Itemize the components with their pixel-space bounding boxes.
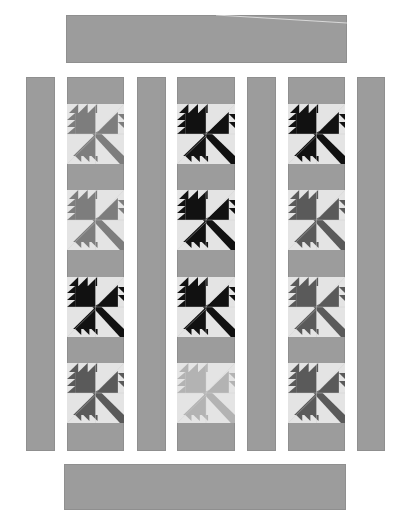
maple-leaf-block	[67, 363, 124, 423]
maple-leaf-block	[177, 363, 235, 423]
block-column-2	[177, 77, 235, 451]
maple-leaf-block	[177, 190, 235, 250]
block-column-3	[288, 77, 345, 451]
bottom-border	[64, 464, 346, 510]
maple-leaf-block	[288, 190, 345, 250]
sashing-strip-1	[26, 77, 55, 451]
top-border	[66, 15, 347, 63]
maple-leaf-block	[288, 277, 345, 337]
maple-leaf-block	[67, 190, 124, 250]
sashing-strip-3	[247, 77, 276, 451]
maple-leaf-block	[67, 277, 124, 337]
maple-leaf-block	[288, 363, 345, 423]
maple-leaf-block	[288, 104, 345, 164]
maple-leaf-block	[67, 104, 124, 164]
maple-leaf-block	[177, 104, 235, 164]
block-column-1	[67, 77, 124, 451]
maple-leaf-block	[177, 277, 235, 337]
sashing-strip-2	[137, 77, 166, 451]
sashing-strip-4	[357, 77, 385, 451]
